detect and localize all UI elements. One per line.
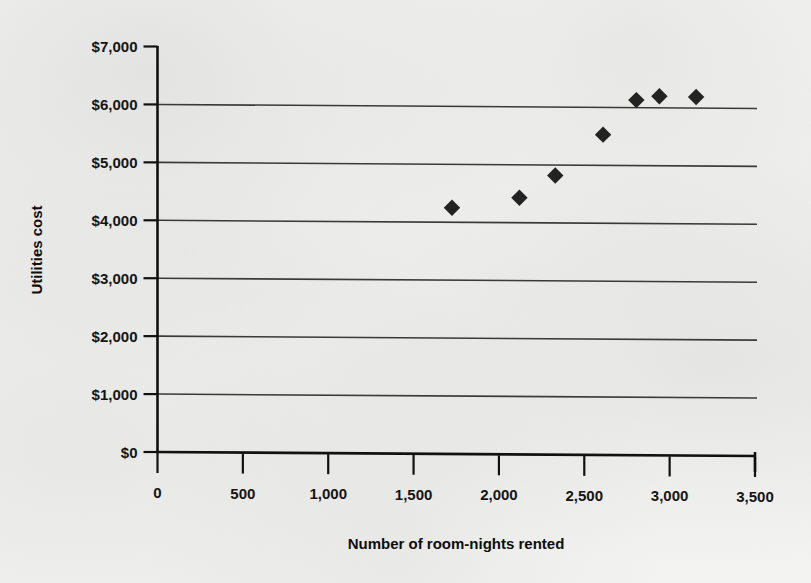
x-tick-label: 2,500 bbox=[566, 487, 604, 504]
y-tick-label-group: $0$1,000$2,000$3,000$4,000$5,000$6,000$7… bbox=[92, 38, 138, 461]
chart-page: $0$1,000$2,000$3,000$4,000$5,000$6,000$7… bbox=[0, 0, 811, 583]
y-tick-group bbox=[144, 47, 158, 453]
data-point-marker bbox=[547, 167, 563, 183]
y-tick-label: $4,000 bbox=[92, 212, 138, 229]
y-tick-label: $6,000 bbox=[92, 96, 138, 113]
gridline-group bbox=[158, 104, 758, 398]
data-point-marker bbox=[688, 89, 704, 105]
gridline bbox=[158, 162, 758, 166]
x-tick-label-group: 05001,0001,5002,0002,5003,0003,500 bbox=[153, 484, 773, 505]
x-tick-label: 1,500 bbox=[395, 486, 433, 503]
data-point-marker bbox=[651, 88, 667, 104]
gridline bbox=[158, 104, 758, 108]
gridline bbox=[158, 336, 758, 340]
y-tick-label: $3,000 bbox=[92, 270, 138, 287]
y-tick-label: $2,000 bbox=[92, 328, 138, 345]
x-axis-title: Number of room-nights rented bbox=[348, 535, 565, 552]
x-tick-label: 2,000 bbox=[480, 486, 518, 503]
y-tick-label: $0 bbox=[121, 444, 138, 461]
data-point-marker bbox=[595, 126, 611, 142]
scatter-plot: $0$1,000$2,000$3,000$4,000$5,000$6,000$7… bbox=[0, 0, 811, 583]
data-point-marker bbox=[444, 200, 460, 216]
data-point-marker bbox=[511, 190, 527, 206]
x-axis-line bbox=[156, 452, 756, 456]
x-tick-label: 3,000 bbox=[651, 487, 689, 504]
x-tick-label: 0 bbox=[153, 484, 161, 501]
x-tick-label: 3,500 bbox=[736, 488, 774, 505]
x-tick-label: 1,000 bbox=[309, 485, 347, 502]
gridline bbox=[158, 278, 758, 282]
x-tick-label: 500 bbox=[230, 485, 255, 502]
gridline bbox=[158, 394, 758, 398]
y-tick-label: $5,000 bbox=[92, 154, 138, 171]
y-axis-title: Utilities cost bbox=[28, 205, 45, 294]
y-tick-label: $7,000 bbox=[92, 38, 138, 55]
gridline bbox=[158, 220, 758, 224]
data-point-marker bbox=[628, 92, 644, 108]
y-tick-label: $1,000 bbox=[92, 386, 138, 403]
